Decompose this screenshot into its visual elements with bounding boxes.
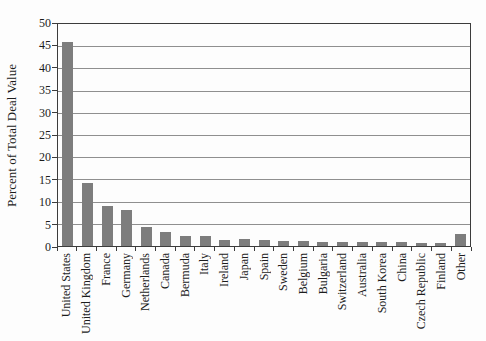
x-tick-mark [471, 247, 472, 251]
x-tick-label-sweden: Sweden [277, 253, 290, 291]
x-tick-mark [116, 247, 117, 251]
y-axis-tick-labels: 05101520253035404550 [26, 23, 51, 247]
x-label-slot: Czech Republic [412, 253, 432, 329]
x-tick-label-united-states: United States [60, 253, 73, 317]
x-tick-mark [313, 247, 314, 251]
y-tick-label-50: 50 [39, 17, 51, 29]
x-tick-mark [155, 247, 156, 251]
x-tick-mark [431, 247, 432, 251]
bar-slot [411, 24, 431, 246]
bar-slot [137, 24, 157, 246]
x-label-slot: France [96, 253, 116, 286]
x-label-slot: Ireland [215, 253, 235, 287]
y-axis-title: Percent of Total Deal Value [4, 23, 20, 247]
y-tick-label-40: 40 [39, 62, 51, 74]
y-tick-label-35: 35 [39, 84, 51, 96]
x-label-slot: United States [57, 253, 77, 317]
x-tick-label-finland: Finland [435, 253, 448, 290]
bar-czech-republic [416, 243, 427, 246]
x-tick-mark [332, 247, 333, 251]
x-label-slot: Belgium [294, 253, 314, 294]
bar-slot [195, 24, 215, 246]
x-tick-label-spain: Spain [258, 253, 271, 280]
x-tick-label-china: China [396, 253, 409, 282]
bar-south-korea [376, 242, 387, 246]
x-tick-label-other: Other [455, 253, 468, 280]
x-label-slot: Netherlands [136, 253, 156, 311]
bar-slot [215, 24, 235, 246]
bar-united-kingdom [82, 183, 93, 246]
x-label-slot: Sweden [274, 253, 294, 291]
bar-germany [121, 210, 132, 246]
bar-united-states [62, 42, 73, 246]
x-tick-label-switzerland: Switzerland [336, 253, 349, 310]
y-tick-label-15: 15 [39, 174, 51, 186]
x-tick-label-japan: Japan [238, 253, 251, 280]
y-tick-label-0: 0 [45, 241, 51, 253]
bar-slot [313, 24, 333, 246]
x-tick-mark [451, 247, 452, 251]
y-tick-label-5: 5 [45, 219, 51, 231]
bar-slot [176, 24, 196, 246]
x-label-slot: United Kingdom [77, 253, 97, 334]
bars-row [58, 24, 470, 246]
plot-area [57, 23, 471, 247]
x-tick-mark [293, 247, 294, 251]
x-axis-tick-marks [57, 247, 471, 251]
y-tick-label-20: 20 [39, 151, 51, 163]
bar-slot [352, 24, 372, 246]
x-label-slot: Other [451, 253, 471, 280]
bar-slot [117, 24, 137, 246]
x-tick-label-czech-republic: Czech Republic [415, 253, 428, 329]
x-tick-mark [135, 247, 136, 251]
bar-switzerland [337, 242, 348, 246]
bar-slot [294, 24, 314, 246]
bar-bermuda [180, 236, 191, 246]
x-tick-mark [76, 247, 77, 251]
x-tick-label-bermuda: Bermuda [179, 253, 192, 297]
y-tick-label-45: 45 [39, 39, 51, 51]
bar-slot [274, 24, 294, 246]
x-label-slot: Bulgaria [313, 253, 333, 294]
x-label-slot: Switzerland [333, 253, 353, 310]
x-tick-mark [194, 247, 195, 251]
x-label-slot: Finland [432, 253, 452, 290]
bar-italy [200, 236, 211, 246]
x-tick-label-canada: Canada [159, 253, 172, 289]
bar-chart-figure: Percent of Total Deal Value 051015202530… [0, 0, 486, 341]
bar-belgium [298, 241, 309, 246]
bar-sweden [278, 241, 289, 246]
bar-slot [78, 24, 98, 246]
bar-bulgaria [317, 242, 328, 246]
x-tick-mark [234, 247, 235, 251]
bar-slot [254, 24, 274, 246]
x-tick-mark [214, 247, 215, 251]
bar-canada [160, 232, 171, 246]
x-tick-mark [372, 247, 373, 251]
x-label-slot: Australia [353, 253, 373, 297]
x-tick-mark [57, 247, 58, 251]
x-tick-label-ireland: Ireland [218, 253, 231, 287]
bar-netherlands [141, 227, 152, 246]
y-tick-label-10: 10 [39, 196, 51, 208]
x-tick-label-united-kingdom: United Kingdom [80, 253, 93, 334]
x-label-slot: Canada [156, 253, 176, 289]
x-tick-mark [352, 247, 353, 251]
x-tick-label-belgium: Belgium [297, 253, 310, 294]
bar-france [102, 206, 113, 246]
x-tick-mark [96, 247, 97, 251]
x-tick-label-bulgaria: Bulgaria [317, 253, 330, 294]
x-axis-tick-labels: United StatesUnited KingdomFranceGermany… [57, 253, 471, 334]
x-tick-mark [254, 247, 255, 251]
x-tick-label-germany: Germany [120, 253, 133, 298]
x-label-slot: Bermuda [175, 253, 195, 297]
bar-slot [372, 24, 392, 246]
bar-other [455, 234, 466, 246]
bar-slot [156, 24, 176, 246]
bar-slot [333, 24, 353, 246]
x-label-slot: China [392, 253, 412, 282]
bar-china [396, 242, 407, 246]
bar-slot [58, 24, 78, 246]
x-tick-label-france: France [100, 253, 113, 286]
x-tick-mark [411, 247, 412, 251]
